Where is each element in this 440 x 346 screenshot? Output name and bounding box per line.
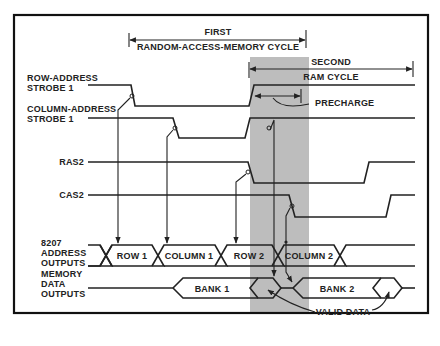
label-ras1-line1: ROW-ADDRESS bbox=[27, 73, 98, 83]
segment-bank2: BANK 2 bbox=[320, 284, 355, 294]
first-cycle-title: FIRST bbox=[205, 27, 232, 37]
first-cycle-subtitle: RANDOM-ACCESS-MEMORY CYCLE bbox=[137, 42, 299, 52]
label-cas1-line1: COLUMN-ADDRESS bbox=[27, 104, 116, 114]
label-cas1-line2: STROBE 1 bbox=[27, 114, 74, 124]
first-cycle-bracket: FIRST RANDOM-ACCESS-MEMORY CYCLE bbox=[129, 27, 306, 52]
precharge-shaded-band bbox=[250, 57, 309, 313]
segment-row1: ROW 1 bbox=[117, 251, 148, 261]
segment-bank1: BANK 1 bbox=[195, 284, 230, 294]
segment-row2: ROW 2 bbox=[234, 251, 265, 261]
label-ras1-line2: STROBE 1 bbox=[27, 83, 74, 93]
signal-labels: ROW-ADDRESS STROBE 1 COLUMN-ADDRESS STRO… bbox=[27, 73, 116, 299]
label-address-line2: ADDRESS bbox=[41, 248, 86, 258]
label-data-line3: OUTPUTS bbox=[41, 289, 85, 299]
precharge-label: PRECHARGE bbox=[315, 98, 374, 108]
segment-column2: COLUMN 2 bbox=[285, 251, 334, 261]
label-address-line3: OUTPUTS bbox=[41, 258, 85, 268]
valid-data-label: VALID DATA bbox=[316, 307, 371, 317]
label-cas2: CAS2 bbox=[59, 190, 84, 200]
second-cycle-title: SECOND bbox=[311, 57, 351, 67]
timing-diagram: FIRST RANDOM-ACCESS-MEMORY CYCLE SECOND … bbox=[0, 0, 440, 346]
label-data-line1: MEMORY bbox=[41, 269, 82, 279]
second-cycle-subtitle: RAM CYCLE bbox=[303, 72, 358, 82]
label-data-line2: DATA bbox=[41, 279, 66, 289]
label-ras2: RAS2 bbox=[59, 157, 84, 167]
segment-column1: COLUMN 1 bbox=[165, 251, 214, 261]
label-address-line1: 8207 bbox=[41, 238, 62, 248]
